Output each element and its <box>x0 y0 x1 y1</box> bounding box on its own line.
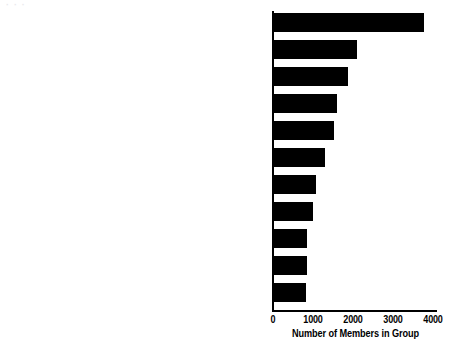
bar <box>273 202 313 221</box>
bar <box>273 229 307 248</box>
bar <box>273 121 334 140</box>
x-tick-label: 1000 <box>296 313 330 325</box>
x-tick-label: 3000 <box>376 313 410 325</box>
x-axis-line <box>272 310 437 312</box>
bar <box>273 148 325 167</box>
x-tick-label: 2000 <box>336 313 370 325</box>
bar-chart: Vote for MMPI'm voting in Ontario – Octo… <box>0 0 465 357</box>
bar <box>273 40 357 59</box>
bar <box>273 283 306 302</box>
bar <box>273 67 348 86</box>
x-axis-title: Number of Members in Group <box>281 328 430 339</box>
x-tick-label: 0 <box>256 313 290 325</box>
bar <box>273 175 316 194</box>
x-tick-label: 4000 <box>416 313 450 325</box>
bar <box>273 13 424 32</box>
bar <box>273 256 307 275</box>
bar <box>273 94 337 113</box>
